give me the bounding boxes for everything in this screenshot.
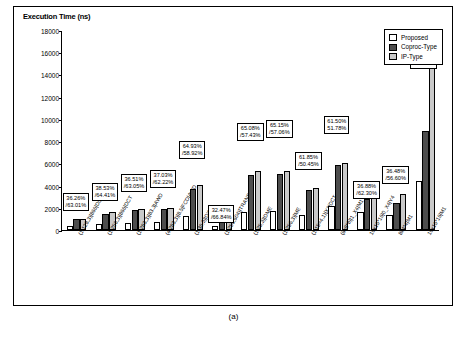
bar-proposed <box>386 215 392 230</box>
bar-annotation: 61.50% 51.78% <box>324 116 349 134</box>
bar-coproc-type <box>306 190 312 230</box>
bar-annotation: 37.03% /62.22% <box>150 170 177 188</box>
bar-coproc-type <box>277 174 283 230</box>
bar-group <box>125 31 145 230</box>
y-axis-tick-mark <box>59 53 62 54</box>
bar-annotation: 65.08% /57.43% <box>237 123 264 141</box>
legend-swatch-proposed <box>389 34 397 41</box>
chart-frame: Execution Time (ns) 02000400060008000100… <box>13 6 453 306</box>
legend-label-coproc-type: Coproc-Type <box>401 42 437 51</box>
bar-proposed <box>183 216 189 230</box>
chart-title: Execution Time (ns) <box>23 12 90 21</box>
bar-coproc-type <box>335 165 341 230</box>
bar-annotation: 64.93% /58.92% <box>179 141 206 159</box>
bar-proposed <box>125 223 131 230</box>
bar-group <box>183 31 203 230</box>
legend-item-proposed: Proposed <box>389 33 437 42</box>
bar-group <box>299 31 319 230</box>
legend-item-coproc-type: Coproc-Type <box>389 42 437 51</box>
bar-group <box>154 31 174 230</box>
bar-proposed <box>328 206 334 230</box>
bar-group <box>357 31 377 230</box>
chart-legend: Proposed Coproc-Type IP-Type <box>384 29 443 65</box>
legend-swatch-ip-type <box>389 53 397 60</box>
bar-annotation: 36.26% /63.01% <box>63 193 90 211</box>
bar-proposed <box>212 226 218 230</box>
legend-label-ip-type: IP-Type <box>401 52 423 61</box>
bar-coproc-type <box>248 175 254 230</box>
y-axis-tick-mark <box>59 142 62 143</box>
legend-item-ip-type: IP-Type <box>389 52 437 61</box>
y-axis-tick-mark <box>59 120 62 121</box>
bar-annotation: 65.15% /57.06% <box>266 120 293 138</box>
y-axis-tick-mark <box>59 98 62 99</box>
bar-proposed <box>154 222 160 230</box>
figure-caption: (a) <box>0 312 467 321</box>
bar-proposed <box>270 211 276 230</box>
bar-annotation: 36.88% /62.30% <box>353 181 380 199</box>
y-axis-tick-mark <box>59 231 62 232</box>
bar-coproc-type <box>190 189 196 230</box>
bar-proposed <box>96 224 102 230</box>
legend-label-proposed: Proposed <box>401 33 428 42</box>
bar-proposed <box>67 226 73 230</box>
bar-proposed <box>241 212 247 230</box>
bar-annotation: 36.48% /56.60% <box>382 166 409 184</box>
y-axis-tick-mark <box>59 75 62 76</box>
plot-area: 0200040006000800010000120001400016000180… <box>61 31 439 231</box>
bar-annotation: 61.85% /50.45% <box>295 152 322 170</box>
bar-coproc-type <box>422 131 428 230</box>
y-axis-tick-mark <box>59 187 62 188</box>
bar-annotation: 36.51% /63.05% <box>121 174 148 192</box>
bar-annotation: 38.53% /64.41% <box>92 183 119 201</box>
y-axis-tick-mark <box>59 164 62 165</box>
bar-proposed <box>416 181 422 230</box>
y-axis-tick-mark <box>59 209 62 210</box>
bar-coproc-type <box>393 203 399 230</box>
legend-swatch-coproc-type <box>389 44 397 51</box>
bar-annotation: 32.47% /66.84% <box>208 205 235 223</box>
bar-coproc-type <box>132 210 138 230</box>
bar-coproc-type <box>364 199 370 230</box>
bar-proposed <box>357 212 363 230</box>
bar-group <box>212 31 232 230</box>
y-axis-tick-mark <box>59 31 62 32</box>
bar-coproc-type <box>161 209 167 230</box>
bar-proposed <box>299 215 305 230</box>
